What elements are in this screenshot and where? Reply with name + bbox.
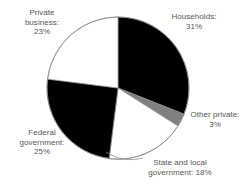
pie-label-other-private: Other private: 3% <box>182 110 248 129</box>
pie-label-households: Households: 31% <box>152 12 236 31</box>
pie-chart-figure: Private business: 23% Households: 31% Ot… <box>0 0 250 189</box>
pie-label-federal-government: Federal government: 25% <box>2 128 82 157</box>
pie-label-private-business: Private business: 23% <box>6 8 78 37</box>
pie-label-state-and-local: State and local government: 18% <box>118 158 242 177</box>
